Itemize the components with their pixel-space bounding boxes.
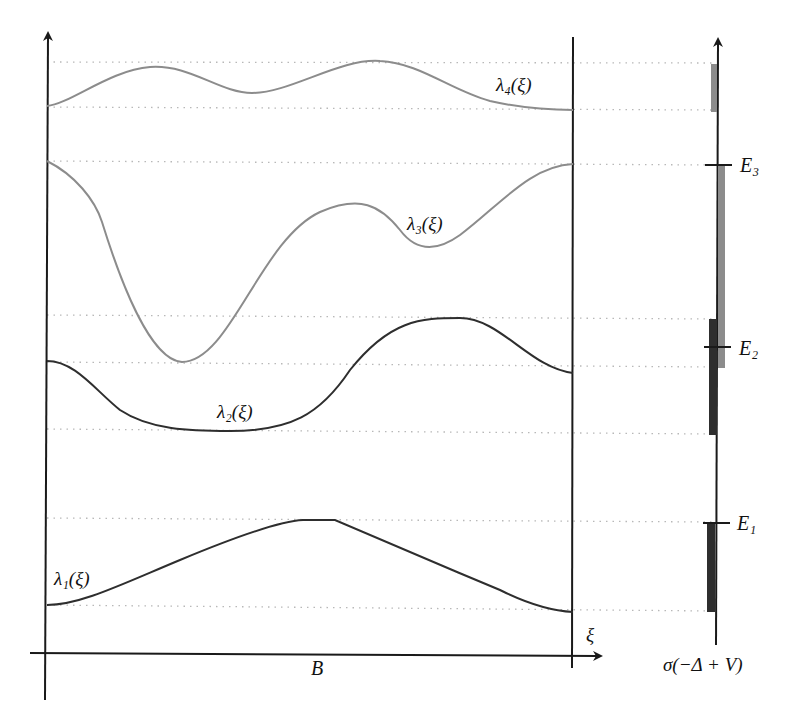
- lambda3-label: λ₃(ξ): [406, 213, 443, 235]
- lambda2-band: [709, 319, 717, 435]
- e3-label: E₃: [739, 154, 759, 176]
- spectrum-axis-label: σ(−Δ + V): [663, 654, 743, 676]
- lambda1-label: λ₁(ξ): [53, 568, 90, 590]
- dotted-guide-lines: [47, 62, 712, 611]
- xi-axis-label: ξ: [586, 624, 595, 645]
- lambda2-label: λ₂(ξ): [216, 401, 253, 423]
- y-axis: [45, 36, 48, 700]
- lambda3-curve: [47, 161, 573, 362]
- lambda4-band: [711, 64, 717, 112]
- x-axis: [30, 653, 598, 656]
- lambda2-curve: [47, 318, 573, 431]
- domain-b-label: B: [311, 657, 323, 679]
- lambda1-curve: [47, 520, 573, 612]
- lambda1-band: [707, 523, 715, 612]
- lambda4-curve: [47, 61, 573, 110]
- band-structure-diagram: λ₄(ξ) λ₃(ξ) λ₂(ξ) λ₁(ξ) ξ B σ(−Δ + V) E₃…: [0, 0, 803, 707]
- lambda3-band: [718, 165, 725, 368]
- domain-right-boundary: [572, 37, 573, 668]
- lambda4-label: λ₄(ξ): [495, 74, 532, 96]
- e1-label: E₁: [736, 512, 756, 534]
- e2-label: E₂: [738, 337, 758, 359]
